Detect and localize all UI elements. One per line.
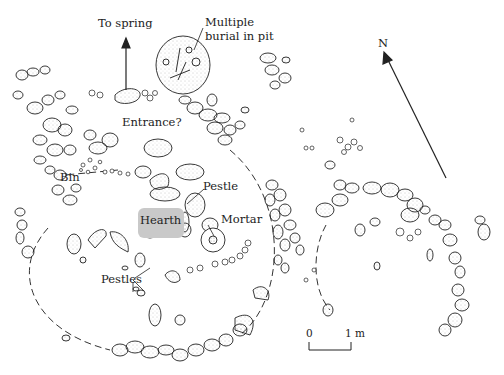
scale-bar xyxy=(309,342,351,350)
scale-end-label: 1 m xyxy=(345,328,365,339)
label-hearth: Hearth xyxy=(140,215,181,227)
label-entrance: Entrance? xyxy=(122,117,182,129)
label-bin: Bin xyxy=(60,172,80,184)
label-mortar: Mortar xyxy=(221,214,262,226)
house-outline-east xyxy=(316,225,330,310)
label-pestles: Pestles xyxy=(101,274,142,286)
site-plan xyxy=(0,0,504,375)
scale-start-label: 0 xyxy=(306,328,313,339)
label-north: N xyxy=(378,38,388,50)
label-pestle: Pestle xyxy=(203,181,238,193)
north-arrow xyxy=(387,58,446,178)
stones xyxy=(13,36,490,361)
burial-pit xyxy=(156,36,210,94)
label-burial-in-pit: burial in pit xyxy=(205,31,274,43)
label-multiple: Multiple xyxy=(205,17,254,29)
label-to-spring: To spring xyxy=(98,18,153,30)
